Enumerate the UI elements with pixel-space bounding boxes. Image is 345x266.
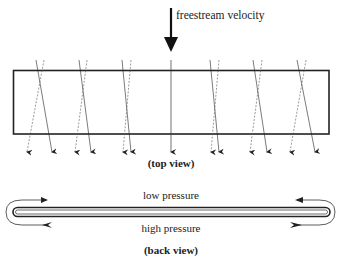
wing-vortex-diagram: freestream velocity (top view) low press… — [0, 0, 345, 266]
right-tip-vortex-icon — [290, 197, 335, 228]
vortex-line — [122, 60, 131, 152]
vortex-line — [297, 60, 315, 152]
top-view-caption: (top view) — [148, 157, 195, 170]
vortex-line — [210, 60, 219, 152]
low-pressure-label: low pressure — [143, 189, 199, 201]
back-view-caption: (back view) — [144, 244, 198, 257]
high-pressure-label: high pressure — [142, 222, 201, 234]
vortex-line — [290, 60, 306, 152]
wing-cross-section — [13, 208, 330, 217]
vortex-line — [253, 60, 267, 152]
vortex-line — [36, 60, 52, 152]
vortex-line — [27, 60, 44, 152]
freestream-velocity-label: freestream velocity — [176, 9, 265, 22]
